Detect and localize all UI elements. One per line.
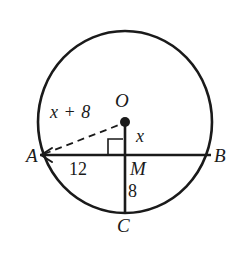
point-label-m: M [130, 159, 146, 178]
measure-label-radius-oa: x + 8 [50, 103, 91, 121]
geometry-figure: A B O M C x + 8 x 12 8 [0, 0, 237, 254]
point-label-c: C [117, 216, 130, 235]
measure-label-segment-om: x [136, 127, 144, 145]
measure-label-segment-mc: 8 [128, 182, 137, 200]
point-label-b: B [214, 146, 226, 165]
right-angle-mark-icon [108, 139, 123, 154]
center-dot-o-icon [120, 117, 130, 127]
point-label-a: A [26, 146, 38, 165]
point-label-o: O [115, 91, 129, 110]
measure-label-segment-am: 12 [69, 160, 87, 178]
